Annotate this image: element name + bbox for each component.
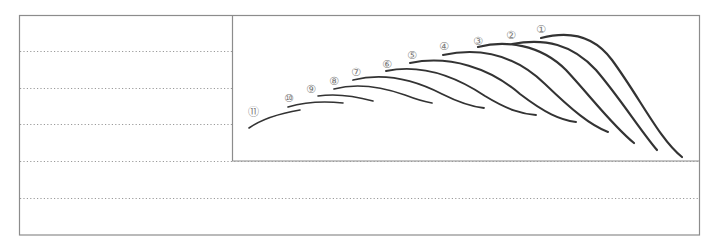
brush-stroke-1 (541, 35, 682, 157)
brush-stroke-6 (386, 69, 536, 115)
stroke-number-label: ④ (439, 40, 449, 53)
brush-stroke-8 (334, 86, 432, 103)
stroke-number-label: ② (506, 29, 516, 42)
stroke-practice-worksheet: ①②③④⑤⑥⑦⑧⑨⑩⑪ (0, 0, 716, 247)
stroke-number-label: ③ (473, 35, 483, 48)
brush-stroke-4 (443, 52, 608, 132)
outer-frame (20, 16, 700, 236)
stroke-number-label: ⑨ (306, 83, 316, 96)
brush-stroke-10 (288, 102, 343, 107)
stroke-number-label: ⑪ (248, 106, 259, 119)
stroke-number-label: ⑧ (329, 75, 339, 88)
stroke-number-label: ⑥ (382, 58, 392, 71)
stroke-number-label: ① (536, 23, 546, 36)
stroke-number-label: ⑤ (407, 49, 417, 62)
stroke-number-label: ⑦ (351, 66, 361, 79)
brush-stroke-9 (318, 95, 373, 101)
stroke-number-label: ⑩ (284, 92, 294, 105)
brush-stroke-7 (353, 77, 484, 108)
stroke-example-group: ①②③④⑤⑥⑦⑧⑨⑩⑪ (248, 23, 682, 157)
